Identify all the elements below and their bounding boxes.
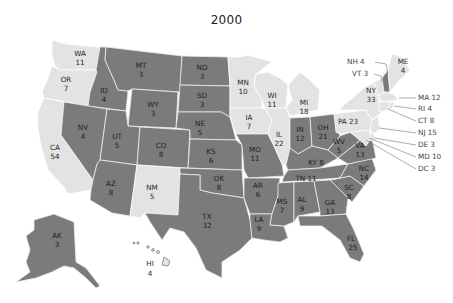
svg-text:NC14: NC14 xyxy=(359,164,369,182)
svg-text:CA54: CA54 xyxy=(50,143,60,161)
label-KY: KY 8 xyxy=(308,158,324,167)
svg-text:MI18: MI18 xyxy=(299,98,309,116)
state-AK[interactable] xyxy=(16,214,100,288)
callout-VT: VT 3 xyxy=(352,69,368,78)
svg-text:WA11: WA11 xyxy=(74,49,86,67)
callout-CT: CT 8 xyxy=(418,116,435,125)
svg-text:OH21: OH21 xyxy=(317,123,328,141)
svg-text:MN10: MN10 xyxy=(237,78,249,96)
callout-MA: MA 12 xyxy=(418,93,441,102)
us-electoral-map: WA11 OR7 CA54 ID4 NV4 MT3 WY3 UT5 CO8 AZ… xyxy=(0,0,453,303)
callout-DE: DE 3 xyxy=(418,140,435,149)
callout-MD: MD 10 xyxy=(418,152,442,161)
label-WA-abbr: WA xyxy=(74,49,86,58)
callout-NH: NH 4 xyxy=(347,57,365,66)
callout-DC: DC 3 xyxy=(418,164,435,173)
callout-NJ: NJ 15 xyxy=(418,128,437,137)
svg-text:IN12: IN12 xyxy=(295,125,304,143)
svg-text:TX32: TX32 xyxy=(201,212,211,230)
svg-text:WI11: WI11 xyxy=(267,91,276,109)
label-PA: PA 23 xyxy=(338,117,358,126)
state-AZ[interactable] xyxy=(90,160,137,216)
callout-RI: RI 4 xyxy=(418,104,432,113)
label-TN: TN 11 xyxy=(294,174,316,183)
svg-text:HI4: HI4 xyxy=(146,259,154,278)
state-DE[interactable] xyxy=(370,132,374,142)
state-CT[interactable] xyxy=(378,102,390,112)
svg-text:NY33: NY33 xyxy=(366,86,376,104)
svg-text:VA13: VA13 xyxy=(355,141,364,159)
svg-text:MO11: MO11 xyxy=(249,145,261,163)
svg-text:GA13: GA13 xyxy=(325,198,336,216)
